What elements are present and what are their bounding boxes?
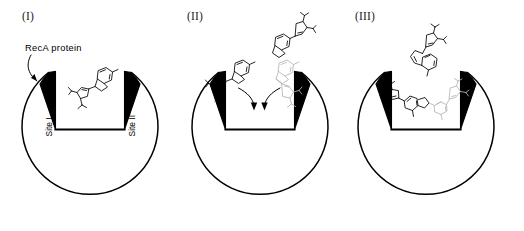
binding-arrow-left bbox=[239, 88, 258, 111]
panel-ii: (II) bbox=[176, 0, 348, 231]
figure-root: (I) RecA protein Site I Site II bbox=[0, 0, 524, 231]
site-i-wall bbox=[40, 72, 56, 130]
reca-protein-shape bbox=[22, 72, 158, 195]
panel-i: (I) RecA protein Site I Site II bbox=[0, 0, 176, 231]
panel-iii: (III) bbox=[348, 0, 524, 231]
panel-i-graphics bbox=[0, 0, 176, 231]
panel-iii-graphics bbox=[348, 0, 524, 231]
ligand-bound-site-i bbox=[69, 68, 119, 109]
reca-protein-shape bbox=[358, 72, 494, 195]
reca-pointer-arrow bbox=[28, 55, 37, 81]
reca-protein-shape bbox=[192, 72, 328, 195]
site-ii-wall bbox=[461, 72, 477, 130]
binding-arrow-right bbox=[261, 88, 280, 111]
site-ii-wall bbox=[125, 72, 141, 130]
site-ii-wall bbox=[295, 72, 311, 130]
ligand-free-upper bbox=[411, 24, 447, 76]
ligand-free-upper bbox=[273, 13, 317, 58]
panel-ii-graphics bbox=[176, 0, 348, 231]
site-i-wall bbox=[376, 72, 392, 130]
